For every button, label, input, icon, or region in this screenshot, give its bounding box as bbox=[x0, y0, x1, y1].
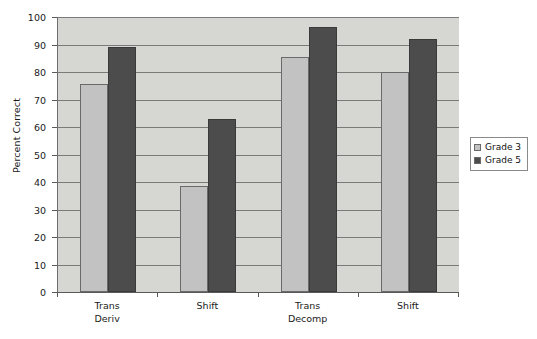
y-axis-tick-group: 0102030405060708090100 bbox=[0, 17, 57, 292]
bar bbox=[281, 57, 309, 292]
x-tick-mark-1 bbox=[157, 292, 158, 297]
x-category-label-line: Shift bbox=[348, 300, 468, 313]
bar bbox=[108, 47, 136, 292]
x-category-label-line: Deriv bbox=[47, 313, 167, 326]
gridline-90 bbox=[58, 45, 459, 46]
y-tick-label-40: 40 bbox=[6, 177, 46, 188]
bar bbox=[80, 84, 108, 292]
bar bbox=[180, 186, 208, 292]
x-tick-mark-0 bbox=[57, 292, 58, 297]
x-tick-mark-3 bbox=[358, 292, 359, 297]
y-tick-label-50: 50 bbox=[6, 149, 46, 160]
legend-label-grade-5: Grade 5 bbox=[485, 155, 521, 165]
y-tick-label-70: 70 bbox=[6, 94, 46, 105]
bar bbox=[208, 119, 236, 292]
bar bbox=[381, 72, 409, 292]
legend-label-grade-3: Grade 3 bbox=[485, 142, 521, 152]
bar bbox=[409, 39, 437, 292]
legend-swatch-grade-3 bbox=[474, 144, 481, 151]
legend-entry-grade-3: Grade 3 bbox=[474, 141, 523, 153]
legend-swatch-grade-5 bbox=[474, 157, 481, 164]
y-tick-label-20: 20 bbox=[6, 232, 46, 243]
x-category-label: Shift bbox=[348, 300, 468, 313]
y-tick-label-80: 80 bbox=[6, 67, 46, 78]
legend: Grade 3 Grade 5 bbox=[470, 137, 528, 171]
gridline-100 bbox=[58, 17, 459, 18]
plot-area bbox=[57, 17, 459, 292]
y-tick-label-10: 10 bbox=[6, 259, 46, 270]
legend-entry-grade-5: Grade 5 bbox=[474, 154, 523, 166]
y-tick-label-60: 60 bbox=[6, 122, 46, 133]
y-tick-label-100: 100 bbox=[6, 12, 46, 23]
x-tick-mark-2 bbox=[258, 292, 259, 297]
bar bbox=[309, 27, 337, 292]
x-category-label-line: Decomp bbox=[248, 313, 368, 326]
bar-chart: Percent Correct 0102030405060708090100 T… bbox=[0, 0, 537, 339]
y-tick-label-90: 90 bbox=[6, 39, 46, 50]
x-tick-mark-4 bbox=[458, 292, 459, 297]
y-tick-label-30: 30 bbox=[6, 204, 46, 215]
y-tick-label-0: 0 bbox=[6, 287, 46, 298]
